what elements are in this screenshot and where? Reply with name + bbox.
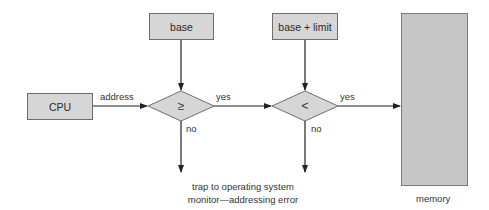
no-edge-label-2: no — [311, 124, 322, 134]
trap-line-2: monitor—addressing error — [173, 193, 313, 206]
trap-line-1: trap to operating system — [173, 180, 313, 193]
no-edge-label-1: no — [186, 124, 197, 134]
address-edge-label: address — [100, 92, 134, 102]
base-label: base — [170, 21, 193, 33]
compare-ge-symbol: ≥ — [171, 100, 191, 112]
memory-block — [402, 14, 468, 186]
cpu-box: CPU — [27, 93, 93, 120]
base-register-box: base — [149, 13, 214, 40]
yes-edge-label-1: yes — [216, 92, 231, 102]
yes-edge-label-2: yes — [340, 92, 355, 102]
cpu-label: CPU — [49, 101, 71, 113]
memory-label: memory — [416, 194, 450, 204]
trap-caption: trap to operating system monitor—address… — [173, 180, 313, 206]
base-limit-register-box: base + limit — [272, 13, 338, 40]
base-limit-label: base + limit — [278, 21, 331, 33]
compare-lt-symbol: < — [295, 100, 315, 112]
